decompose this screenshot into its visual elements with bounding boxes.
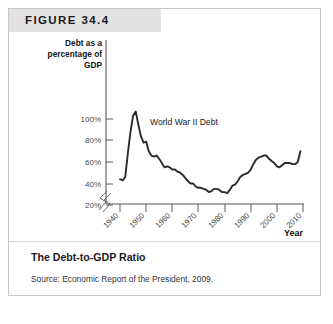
debt-to-gdp-line-chart: Debt as a percentage of GDP 100% 80% 60% bbox=[9, 32, 320, 240]
y-tick-label-20: 20% bbox=[85, 201, 101, 210]
y-axis-title: Debt as a percentage of GDP bbox=[48, 38, 103, 70]
x-tick-label-1990: 1990 bbox=[232, 211, 251, 230]
y-axis-title-line-3: GDP bbox=[84, 60, 102, 70]
y-tick-label-100: 100% bbox=[81, 115, 101, 124]
figure-caption-title: The Debt-to-GDP Ratio bbox=[31, 251, 146, 263]
figure-card: FIGURE 34.4 Debt as a percentage of GDP … bbox=[8, 8, 321, 296]
x-axis-name: Year bbox=[284, 228, 304, 238]
y-axis-title-line-1: Debt as a bbox=[65, 38, 102, 48]
figure-banner: FIGURE 34.4 bbox=[9, 9, 161, 32]
y-tick-label-80: 80% bbox=[85, 136, 101, 145]
x-axis-ticks: 1940 1950 1960 1970 1980 1990 2000 2010 bbox=[101, 204, 303, 230]
y-axis-title-line-2: percentage of bbox=[48, 49, 103, 59]
x-tick-label-1950: 1950 bbox=[127, 211, 146, 230]
world-war-ii-debt-annotation: World War II Debt bbox=[150, 117, 218, 127]
x-tick-label-1960: 1960 bbox=[153, 211, 172, 230]
y-tick-label-40: 40% bbox=[85, 180, 101, 189]
caption-divider bbox=[9, 241, 320, 242]
figure-caption-block: The Debt-to-GDP Ratio Source: Economic R… bbox=[9, 241, 320, 296]
x-tick-label-2000: 2000 bbox=[258, 211, 277, 230]
y-tick-label-60: 60% bbox=[85, 158, 101, 167]
figure-number-label: FIGURE 34.4 bbox=[25, 14, 109, 26]
figure-source-line: Source: Economic Report of the President… bbox=[31, 274, 213, 284]
x-tick-label-1940: 1940 bbox=[101, 211, 120, 230]
chart-plot-region: Debt as a percentage of GDP 100% 80% 60% bbox=[9, 32, 320, 240]
x-tick-label-1980: 1980 bbox=[206, 211, 225, 230]
x-tick-label-1970: 1970 bbox=[179, 211, 198, 230]
